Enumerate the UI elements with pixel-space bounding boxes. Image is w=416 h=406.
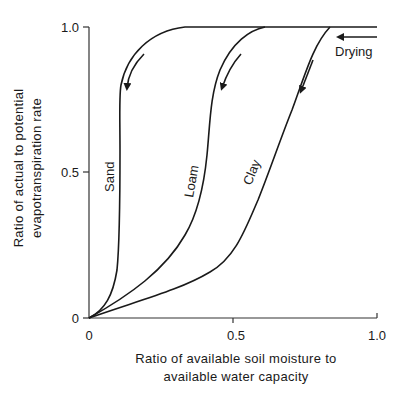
y-axis-title-line1: Ratio of actual to potential (11, 89, 26, 248)
clay-direction-arrow-icon (301, 60, 313, 91)
clay-label: Clay (240, 157, 264, 187)
x-axis-title-line2: available water capacity (163, 369, 308, 384)
y-tick-label-05: 0.5 (61, 165, 79, 180)
y-axis-title-line2: evapotranspiration rate (29, 98, 44, 238)
x-axis-title-line1: Ratio of available soil moisture to (135, 351, 336, 366)
x-tick-label-1: 1.0 (368, 328, 386, 343)
x-tick-label-05: 0.5 (227, 328, 245, 343)
loam-label: Loam (181, 164, 201, 199)
y-tick-label-1: 1.0 (61, 20, 79, 35)
sand-label: Sand (102, 162, 117, 192)
y-tick-label-0: 0 (72, 311, 79, 326)
soil-moisture-et-chart: 1.0 0.5 0 0 0.5 1.0 Ratio of available s… (0, 0, 416, 406)
drying-label: Drying (335, 44, 373, 59)
x-tick-label-0: 0 (85, 328, 92, 343)
sand-direction-arrow-icon (127, 54, 144, 88)
axes (83, 27, 377, 323)
